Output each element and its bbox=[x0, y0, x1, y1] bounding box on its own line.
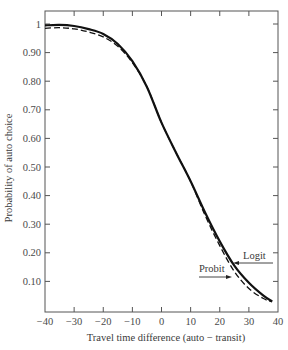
x-tick-label: 20 bbox=[215, 316, 226, 327]
logit-label: Logit bbox=[243, 250, 266, 261]
y-tick-label: 0.80 bbox=[23, 76, 41, 87]
probit-arrowhead-icon bbox=[226, 275, 232, 279]
x-tick-label: −10 bbox=[124, 316, 140, 327]
plot-frame bbox=[45, 11, 278, 312]
y-tick-label: 0.70 bbox=[23, 104, 41, 115]
chart-canvas: −40−30−20−100102030400.100.200.300.400.5… bbox=[0, 0, 288, 350]
x-tick-label: −30 bbox=[66, 316, 82, 327]
y-tick-label: 0.30 bbox=[23, 219, 41, 230]
x-tick-label: −40 bbox=[37, 316, 53, 327]
x-tick-label: 40 bbox=[273, 316, 284, 327]
y-tick-label: 0.90 bbox=[23, 47, 41, 58]
y-tick-label: 0.40 bbox=[23, 190, 41, 201]
axis-ticks: −40−30−20−100102030400.100.200.300.400.5… bbox=[23, 11, 284, 327]
series-probit-line bbox=[45, 28, 272, 302]
x-tick-label: 0 bbox=[159, 316, 164, 327]
plot-border bbox=[45, 11, 278, 312]
y-tick-label: 0.10 bbox=[23, 276, 41, 287]
y-tick-label: 1 bbox=[36, 19, 41, 30]
x-tick-label: −20 bbox=[95, 316, 111, 327]
chart: −40−30−20−100102030400.100.200.300.400.5… bbox=[0, 0, 288, 350]
x-tick-label: 10 bbox=[185, 316, 196, 327]
y-axis-title: Probability of auto choice bbox=[3, 113, 14, 222]
y-tick-label: 0.20 bbox=[23, 247, 41, 258]
series-lines bbox=[45, 25, 272, 302]
x-axis-title: Travel time difference (auto − transit) bbox=[87, 332, 246, 344]
x-tick-label: 30 bbox=[244, 316, 255, 327]
probit-label: Probit bbox=[199, 263, 225, 274]
y-tick-label: 0.60 bbox=[23, 133, 41, 144]
y-tick-label: 0.50 bbox=[23, 162, 41, 173]
series-logit-line bbox=[45, 25, 272, 302]
